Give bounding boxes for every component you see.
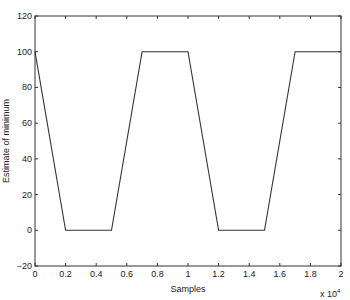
x-tick-label: 0.4 <box>90 269 103 279</box>
x-tick-label: 1.2 <box>212 269 225 279</box>
x-tick-label: 0 <box>32 269 37 279</box>
y-tick-label: 0 <box>27 225 32 235</box>
x-multiplier: x 104 <box>320 288 341 299</box>
x-tick-label: 0.6 <box>121 269 134 279</box>
x-tick-label: 1.4 <box>243 269 256 279</box>
y-tick-label: 40 <box>22 154 32 164</box>
x-tick-label: 1.6 <box>274 269 287 279</box>
y-tick-label: 80 <box>22 82 32 92</box>
y-axis-label: Estimate of minimum <box>1 99 11 183</box>
y-tick-label: 100 <box>17 47 32 57</box>
x-tick-label: 1.8 <box>304 269 317 279</box>
x-axis-label: Samples <box>170 284 206 294</box>
y-tick-label: 20 <box>22 190 32 200</box>
x-tick-label: 2 <box>338 269 343 279</box>
x-tick-label: 1 <box>185 269 190 279</box>
data-line <box>35 52 341 231</box>
x-tick-label: 0.2 <box>59 269 72 279</box>
y-tick-label: 60 <box>22 118 32 128</box>
y-tick-label: −20 <box>17 261 32 271</box>
y-tick-label: 120 <box>17 11 32 21</box>
chart: 00.20.40.60.811.21.41.61.82−200204060801… <box>0 0 350 300</box>
x-tick-label: 0.8 <box>151 269 164 279</box>
